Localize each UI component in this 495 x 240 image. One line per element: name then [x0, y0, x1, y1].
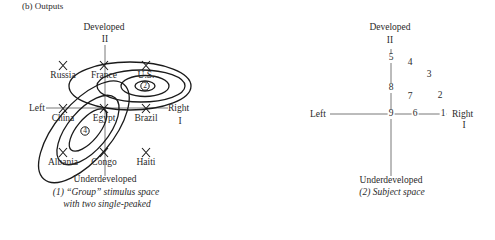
right-axis-top-label: Developed [369, 23, 410, 33]
left-axis-left-label: Left [29, 104, 46, 114]
right-axis-left-label: Left [310, 110, 326, 120]
left-axis-top-label: Developed [83, 23, 124, 33]
stimulus-label-brazil: Brazil [134, 114, 157, 124]
stimulus-label-haiti: Haiti [137, 158, 156, 168]
subject-point-4: 4 [408, 58, 413, 68]
stimulus-label-us: U.S. [138, 71, 155, 81]
subject-point-6: 6 [412, 109, 419, 119]
stimulus-label-congo: Congo [91, 158, 116, 168]
subject-point-5: 5 [389, 53, 394, 63]
subject-point-8: 8 [389, 83, 394, 93]
left-axis-right-label: Right [168, 104, 189, 114]
subject-point-1: 1 [440, 109, 447, 119]
left-axis-right-numeral: I [178, 117, 181, 127]
left-caption-line1: (1) “Group” stimulus space [53, 188, 160, 198]
subject-point-3: 3 [427, 70, 432, 80]
ideal-point-4-label: 4 [83, 127, 87, 135]
left-axis-bottom-label: Underdeveloped [74, 175, 137, 185]
stimulus-label-china: China [52, 114, 75, 124]
stimulus-label-france: France [91, 71, 117, 81]
left-caption-line2: with two single-peaked [63, 200, 151, 210]
right-axis-right-numeral: I [462, 121, 465, 131]
right-caption: (2) Subject space [359, 188, 424, 198]
stimulus-label-albania: Albania [48, 158, 78, 168]
stimulus-label-egypt: Egypt [93, 114, 116, 124]
right-axis-top-numeral: II [387, 36, 393, 46]
subject-point-9: 9 [388, 109, 395, 119]
right-axis-bottom-label: Underdeveloped [360, 176, 423, 186]
stimulus-label-russia: Russia [50, 71, 75, 81]
left-axis-top-numeral: II [102, 35, 108, 45]
subject-point-2: 2 [438, 91, 443, 101]
ideal-point-2-label: 2 [143, 82, 147, 90]
right-axis-right-label: Right [452, 110, 473, 120]
subject-point-7: 7 [408, 92, 413, 102]
